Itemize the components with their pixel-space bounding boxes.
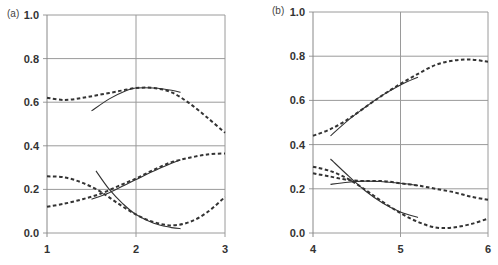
series-line-solid-flat	[331, 181, 419, 185]
y-tick-labels-b: 0.00.20.40.60.81.0	[290, 6, 306, 239]
series-line-solid-falling	[96, 171, 181, 229]
x-tick-labels-a: 123	[44, 243, 228, 255]
series-line-solid-upper	[331, 77, 419, 136]
gridlines-b	[309, 12, 488, 237]
y-tick-label: 1.0	[290, 6, 305, 18]
figure: (a) 0.00.20.40.60.81.0 123 (b) 0.00.20.4…	[0, 0, 498, 265]
y-tick-label: 0.6	[290, 94, 305, 106]
x-tick-label: 5	[397, 243, 403, 255]
gridlines-a	[43, 15, 225, 237]
x-tick-labels-b: 456	[310, 243, 491, 255]
x-tick-label: 6	[485, 243, 491, 255]
chart-panel-a: (a) 0.00.20.40.60.81.0 123	[7, 8, 228, 255]
x-tick-label: 3	[222, 243, 228, 255]
y-tick-label: 0.2	[24, 183, 39, 195]
y-tick-label: 0.6	[24, 96, 39, 108]
y-tick-label: 0.0	[290, 227, 305, 239]
series-line-solid-falling	[331, 159, 419, 218]
panel-label-a: (a)	[7, 8, 19, 19]
y-tick-label: 0.0	[24, 227, 39, 239]
y-tick-label: 0.2	[290, 183, 305, 195]
chart-panel-b: (b) 0.00.20.40.60.81.0 456	[272, 5, 491, 255]
y-tick-label: 0.4	[290, 139, 306, 151]
x-tick-label: 2	[133, 243, 139, 255]
x-tick-label: 4	[310, 243, 317, 255]
y-tick-label: 1.0	[24, 9, 39, 21]
panel-label-b: (b)	[272, 5, 284, 16]
y-tick-label: 0.8	[290, 50, 305, 62]
x-tick-label: 1	[44, 243, 50, 255]
y-tick-label: 0.4	[24, 140, 40, 152]
y-tick-labels-a: 0.00.20.40.60.81.0	[24, 9, 40, 239]
y-tick-label: 0.8	[24, 53, 39, 65]
